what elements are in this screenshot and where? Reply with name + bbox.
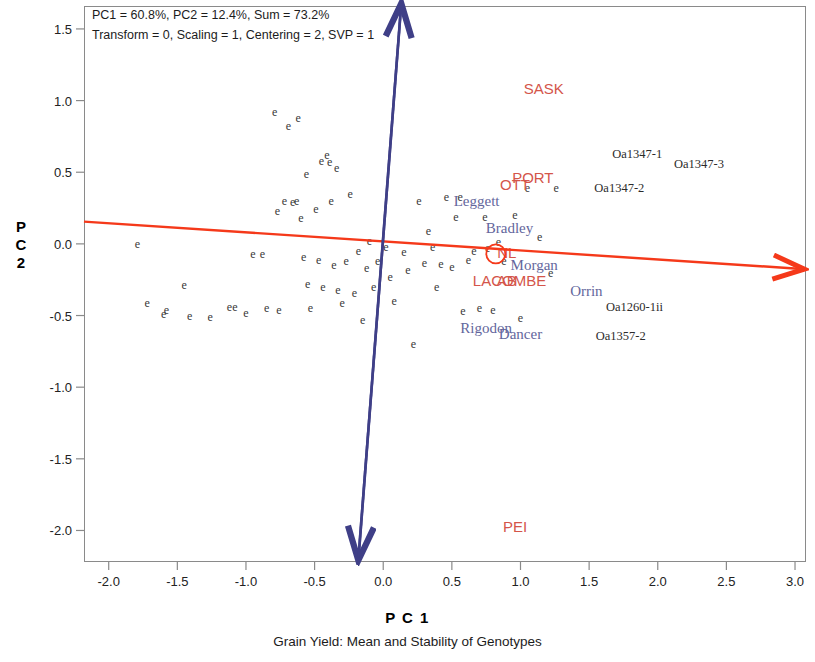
y-tick-label: -1.0 bbox=[28, 380, 72, 395]
genotype-code-label: Oa1347-3 bbox=[674, 157, 724, 170]
x-tick-label: -0.5 bbox=[303, 574, 325, 589]
scatter-point-marker: e bbox=[537, 231, 542, 243]
scatter-point-marker: e bbox=[250, 248, 255, 260]
y-axis-title-char: C bbox=[8, 236, 34, 254]
scatter-point-marker: e bbox=[187, 310, 192, 322]
scatter-point-marker: e bbox=[518, 312, 523, 324]
x-tick-label: 2.0 bbox=[649, 574, 667, 589]
scatter-point-marker: e bbox=[144, 297, 149, 309]
y-tick-label: -2.0 bbox=[28, 523, 72, 538]
y-tick-label: 1.5 bbox=[28, 21, 72, 36]
scatter-point-marker: e bbox=[282, 195, 287, 207]
x-tick-label: -1.0 bbox=[235, 574, 257, 589]
scatter-point-marker: e bbox=[208, 311, 213, 323]
scatter-point-marker: e bbox=[422, 257, 427, 269]
scatter-point-marker: e bbox=[343, 255, 348, 267]
x-tick-label: -2.0 bbox=[98, 574, 120, 589]
scatter-point-marker: e bbox=[243, 307, 248, 319]
x-tick-label: 1.0 bbox=[511, 574, 529, 589]
x-tick-label: 3.0 bbox=[786, 574, 804, 589]
scatter-point-marker: e bbox=[308, 302, 313, 314]
genotype-label: Bradley bbox=[486, 221, 533, 236]
y-axis-title-char: 2 bbox=[8, 254, 34, 272]
scatter-point-marker: e bbox=[360, 314, 365, 326]
environment-label: PEI bbox=[503, 519, 527, 534]
scatter-point-marker: e bbox=[405, 264, 410, 276]
scatter-point-marker: e bbox=[334, 162, 339, 174]
scatter-point-marker: e bbox=[383, 241, 388, 253]
scatter-point-marker: e bbox=[276, 304, 281, 316]
scatter-point-marker: e bbox=[320, 281, 325, 293]
scatter-point-marker: e bbox=[485, 242, 490, 254]
scatter-point-marker: e bbox=[356, 245, 361, 257]
scatter-point-marker: e bbox=[371, 281, 376, 293]
genotype-code-label: Oa1347-1 bbox=[612, 147, 662, 160]
figure-caption: Grain Yield: Mean and Stability of Genot… bbox=[0, 634, 815, 649]
scatter-point-marker: e bbox=[295, 112, 300, 124]
x-tick-label: -1.5 bbox=[166, 574, 188, 589]
variance-annotation: PC1 = 60.8%, PC2 = 12.4%, Sum = 73.2% bbox=[92, 8, 329, 22]
genotype-label: Orrin bbox=[570, 284, 603, 299]
scatter-point-marker: e bbox=[426, 225, 431, 237]
y-tick-label: -0.5 bbox=[28, 308, 72, 323]
scatter-point-marker: e bbox=[305, 278, 310, 290]
scatter-point-marker: e bbox=[490, 304, 495, 316]
scatter-point-marker: e bbox=[375, 255, 380, 267]
scatter-point-marker: e bbox=[294, 195, 299, 207]
scatter-point-marker: e bbox=[471, 245, 476, 257]
scatter-point-marker: e bbox=[477, 302, 482, 314]
x-tick-label: 0.0 bbox=[374, 574, 392, 589]
scatter-point-marker: e bbox=[328, 195, 333, 207]
parameters-annotation: Transform = 0, Scaling = 1, Centering = … bbox=[92, 28, 374, 42]
scatter-point-marker: e bbox=[304, 168, 309, 180]
scatter-point-marker: e bbox=[272, 106, 277, 118]
plot-area-frame bbox=[84, 6, 806, 562]
scatter-point-marker: e bbox=[339, 297, 344, 309]
x-tick-label: 0.5 bbox=[443, 574, 461, 589]
scatter-point-marker: e bbox=[416, 195, 421, 207]
scatter-point-marker: e bbox=[460, 305, 465, 317]
genotype-code-label: Oa1260-1ii bbox=[606, 301, 663, 314]
scatter-point-marker: e bbox=[182, 279, 187, 291]
environment-label: SASK bbox=[524, 80, 564, 95]
x-tick-label: 2.5 bbox=[717, 574, 735, 589]
y-tick-label: 1.0 bbox=[28, 93, 72, 108]
y-axis-title-char: P bbox=[8, 218, 34, 236]
x-axis-title: P C 1 bbox=[0, 609, 815, 626]
scatter-point-marker: e bbox=[286, 120, 291, 132]
y-axis-title: P C 2 bbox=[8, 218, 34, 272]
genotype-code-label: Oa1357-2 bbox=[596, 329, 646, 342]
y-tick-label: -1.5 bbox=[28, 451, 72, 466]
scatter-point-marker: e bbox=[135, 238, 140, 250]
x-tick-label: 1.5 bbox=[580, 574, 598, 589]
scatter-point-marker: e bbox=[260, 248, 265, 260]
scatter-point-marker: e bbox=[411, 338, 416, 350]
scatter-point-marker: e bbox=[430, 241, 435, 253]
scatter-point-marker: e bbox=[335, 284, 340, 296]
scatter-point-marker: e bbox=[554, 182, 559, 194]
scatter-point-marker: e bbox=[367, 235, 372, 247]
scatter-point-marker: e bbox=[364, 262, 369, 274]
scatter-point-marker: e bbox=[453, 211, 458, 223]
genotype-label: Morgan bbox=[511, 258, 558, 273]
scatter-point-marker: e bbox=[301, 251, 306, 263]
scatter-point-marker: e bbox=[331, 259, 336, 271]
scatter-point-marker: e bbox=[438, 258, 443, 270]
scatter-point-marker: e bbox=[298, 212, 303, 224]
environment-label: OTT bbox=[500, 176, 530, 191]
scatter-point-marker: e bbox=[264, 302, 269, 314]
scatter-point-marker: e bbox=[327, 156, 332, 168]
scatter-point-marker: e bbox=[449, 261, 454, 273]
scatter-point-marker: e bbox=[275, 205, 280, 217]
scatter-point-marker: e bbox=[387, 271, 392, 283]
scatter-point-marker: e bbox=[352, 287, 357, 299]
scatter-point-marker: e bbox=[401, 246, 406, 258]
genotype-label: Dancer bbox=[499, 327, 542, 342]
genotype-code-label: Oa1347-2 bbox=[594, 182, 644, 195]
biplot-figure: PC1 = 60.8%, PC2 = 12.4%, Sum = 73.2% Tr… bbox=[0, 0, 815, 662]
environment-label: AB bbox=[497, 272, 517, 287]
y-tick-label: 0.0 bbox=[28, 236, 72, 251]
scatter-point-marker: e bbox=[164, 304, 169, 316]
scatter-point-marker: e bbox=[444, 191, 449, 203]
y-tick-label: 0.5 bbox=[28, 165, 72, 180]
